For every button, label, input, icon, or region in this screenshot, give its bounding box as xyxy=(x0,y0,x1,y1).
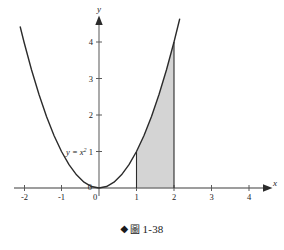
x-axis-label: x xyxy=(272,178,277,188)
x-tick-label--2: -2 xyxy=(21,192,28,202)
y-axis-label: y xyxy=(96,4,101,14)
x-tick-label-1: 1 xyxy=(134,192,138,202)
x-tick-label-2: 2 xyxy=(172,192,176,202)
figure-caption: ◆圖1-38 xyxy=(0,221,284,236)
curve-equation-exponent: 2 xyxy=(84,147,87,153)
figure-container: -2 -1 0 1 2 3 4 0 1 2 3 4 x y y = x2 ◆圖1… xyxy=(0,0,284,250)
x-tick-label--1: -1 xyxy=(58,192,65,202)
x-tick-label-3: 3 xyxy=(209,192,213,202)
curve-equation-label: y = x2 xyxy=(65,147,87,157)
figure-caption-cjk-label: 圖 xyxy=(130,221,140,236)
x-tick-label-0: 0 xyxy=(93,192,97,202)
diamond-bullet-icon: ◆ xyxy=(120,223,128,234)
plot-background xyxy=(0,0,284,250)
y-tick-label-2: 2 xyxy=(89,110,93,120)
y-tick-label-3: 3 xyxy=(89,74,93,84)
plot-canvas: -2 -1 0 1 2 3 4 0 1 2 3 4 x y y = x2 xyxy=(0,0,284,250)
y-tick-label-1: 1 xyxy=(89,147,93,157)
figure-caption-number: 1-38 xyxy=(143,223,164,235)
curve-equation-base: y = x xyxy=(65,147,84,157)
